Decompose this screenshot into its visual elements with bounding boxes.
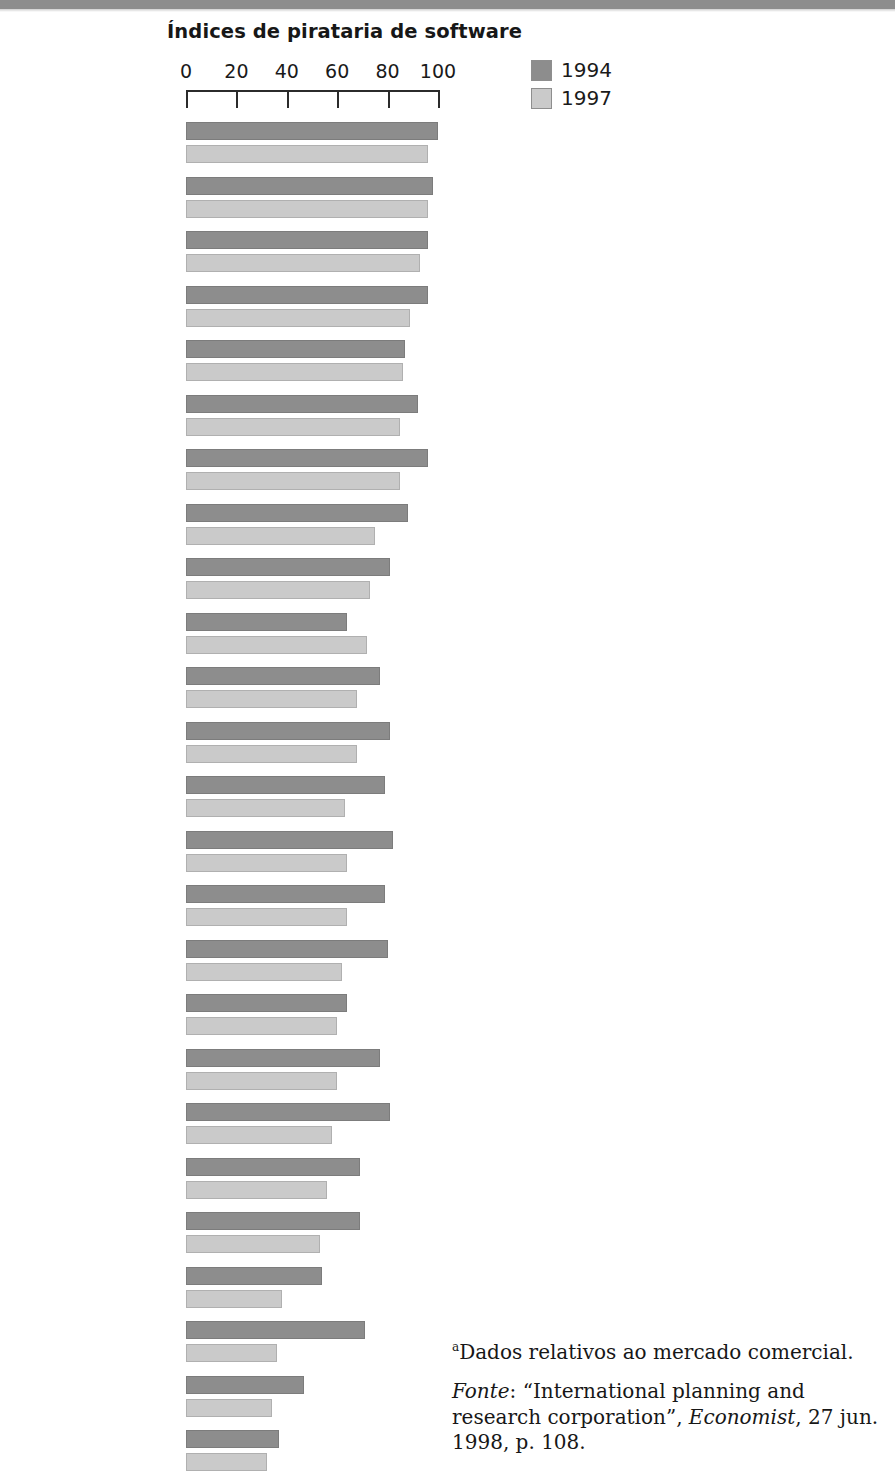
x-tick-mark-60 bbox=[337, 90, 339, 108]
bar-group: Hong Kong bbox=[0, 613, 460, 654]
bar-group: Turquia bbox=[0, 395, 460, 436]
bar-1997 bbox=[186, 309, 410, 327]
bar-group: Filipinas bbox=[0, 449, 460, 490]
bar-1994 bbox=[186, 940, 388, 958]
bar-1994 bbox=[186, 831, 393, 849]
bar-1997 bbox=[186, 1399, 272, 1417]
bar-1994 bbox=[186, 667, 380, 685]
bar-1994 bbox=[186, 1267, 322, 1285]
bar-group: Brasil bbox=[0, 776, 460, 817]
bar-1994 bbox=[186, 231, 428, 249]
bar-1994 bbox=[186, 994, 347, 1012]
bar-group: México bbox=[0, 831, 460, 872]
footnote-text: Dados relativos ao mercado comercial. bbox=[459, 1340, 853, 1364]
bar-1994 bbox=[186, 613, 347, 631]
bar-1997 bbox=[186, 254, 420, 272]
bar-group: República Tcheca bbox=[0, 1158, 460, 1199]
bar-group: Alemanha bbox=[0, 1267, 460, 1308]
bar-1994 bbox=[186, 1049, 380, 1067]
x-tick-mark-80 bbox=[388, 90, 390, 108]
bar-group: Hungria bbox=[0, 940, 460, 981]
bar-1997 bbox=[186, 745, 357, 763]
chart-notes: aDados relativos ao mercado comercial. F… bbox=[452, 1340, 887, 1456]
bar-1997 bbox=[186, 1290, 282, 1308]
bar-chart-plot-area: VietnãChinaIndonésiaRússiaTailândiaTurqu… bbox=[0, 0, 895, 1484]
bar-1994 bbox=[186, 776, 385, 794]
bar-1994 bbox=[186, 395, 418, 413]
bar-group: China bbox=[0, 177, 460, 218]
bar-1994 bbox=[186, 1158, 360, 1176]
bar-group: Grécia bbox=[0, 504, 460, 545]
bar-1994 bbox=[186, 122, 438, 140]
bar-1994 bbox=[186, 558, 390, 576]
bar-1997 bbox=[186, 418, 400, 436]
bar-1997 bbox=[186, 1072, 337, 1090]
bar-1997 bbox=[186, 145, 428, 163]
source-publication: Economist bbox=[689, 1405, 795, 1429]
x-tick-mark-20 bbox=[236, 90, 238, 108]
bar-1997 bbox=[186, 1017, 337, 1035]
bar-1997 bbox=[186, 363, 403, 381]
bar-1994 bbox=[186, 177, 433, 195]
bar-1997 bbox=[186, 690, 357, 708]
bar-1994 bbox=[186, 449, 428, 467]
bar-group: Vietnã bbox=[0, 122, 460, 163]
source-note: Fonte: “International planning and resea… bbox=[452, 1379, 887, 1456]
bar-1997 bbox=[186, 200, 428, 218]
bar-1997 bbox=[186, 527, 375, 545]
bar-1997 bbox=[186, 963, 342, 981]
bar-1997 bbox=[186, 799, 345, 817]
bar-group: Israel bbox=[0, 1103, 460, 1144]
bar-1994 bbox=[186, 1103, 390, 1121]
bar-1997 bbox=[186, 1181, 327, 1199]
bar-1997 bbox=[186, 854, 347, 872]
bar-group: Estados Unidos bbox=[0, 1430, 460, 1471]
bar-group: Rússia bbox=[0, 286, 460, 327]
bar-group: Inglaterra bbox=[0, 1376, 460, 1417]
bar-1994 bbox=[186, 1376, 304, 1394]
bar-group: Chile bbox=[0, 1049, 460, 1090]
x-tick-mark-0 bbox=[186, 90, 188, 108]
bar-1994 bbox=[186, 1212, 360, 1230]
bar-1997 bbox=[186, 1453, 267, 1471]
bar-1994 bbox=[186, 885, 385, 903]
bar-group: Índia bbox=[0, 558, 460, 599]
bar-group: Argentina bbox=[0, 722, 460, 763]
bar-1997 bbox=[186, 1126, 332, 1144]
bar-group: Indonésia bbox=[0, 231, 460, 272]
bar-1994 bbox=[186, 1430, 279, 1448]
bar-1997 bbox=[186, 1235, 320, 1253]
bar-group: Polônia bbox=[0, 885, 460, 926]
bar-1994 bbox=[186, 722, 390, 740]
source-label: Fonte bbox=[452, 1379, 510, 1403]
footnote-a: aDados relativos ao mercado comercial. bbox=[452, 1340, 887, 1365]
bar-group: Coréia do Sul bbox=[0, 667, 460, 708]
bar-1997 bbox=[186, 636, 367, 654]
bar-1994 bbox=[186, 504, 408, 522]
bar-group: Cingapura bbox=[0, 994, 460, 1035]
bar-1994 bbox=[186, 1321, 365, 1339]
bar-1997 bbox=[186, 1344, 277, 1362]
bar-1994 bbox=[186, 286, 428, 304]
bar-group: África do Sul bbox=[0, 1212, 460, 1253]
bar-1997 bbox=[186, 472, 400, 490]
bar-1997 bbox=[186, 581, 370, 599]
bar-group: Japão bbox=[0, 1321, 460, 1362]
x-tick-mark-40 bbox=[287, 90, 289, 108]
bar-1994 bbox=[186, 340, 405, 358]
bar-group: Tailândia bbox=[0, 340, 460, 381]
bar-1997 bbox=[186, 908, 347, 926]
x-tick-mark-100 bbox=[438, 90, 440, 108]
